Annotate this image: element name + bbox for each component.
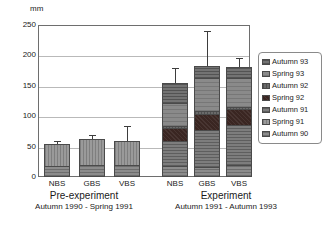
group-title: Experiment	[150, 190, 302, 202]
error-bar-cap	[89, 135, 96, 136]
legend-item-label: Autumn 93	[272, 58, 308, 66]
legend-item-autumn-91[interactable]: Autumn 91	[262, 104, 318, 116]
x-axis-tick-label: GBS	[189, 179, 225, 188]
bars-layer	[38, 25, 250, 177]
spring93-swatch-icon	[262, 71, 270, 77]
bar-segment-autumn-90	[227, 166, 251, 176]
legend-item-spring-91[interactable]: Spring 91	[262, 116, 318, 128]
group-caption-pre-experiment: Pre-experiment Autumn 1990 - Spring 1991	[14, 190, 154, 212]
legend-item-label: Spring 91	[272, 118, 304, 126]
y-axis-tick-label: 100	[10, 112, 36, 120]
y-axis-tick-label: 150	[10, 82, 36, 90]
legend-item-label: Autumn 91	[272, 106, 308, 114]
legend-item-spring-92[interactable]: Spring 92	[262, 92, 318, 104]
bar-segment-autumn-93	[163, 84, 187, 104]
bar-experiment-gbs	[194, 66, 220, 177]
autumn90-swatch-icon	[262, 131, 270, 137]
autumn92-swatch-icon	[262, 83, 270, 89]
y-axis-tick-label: 250	[10, 21, 36, 29]
error-bar-cap	[204, 31, 211, 32]
bar-segment-spring-93	[195, 79, 219, 112]
error-bar-line	[207, 31, 208, 66]
bar-segment-spring-91	[115, 142, 139, 166]
bar-segment-autumn-90	[115, 166, 139, 176]
legend-item-label: Autumn 90	[272, 130, 308, 138]
bar-segment-autumn-90	[163, 167, 187, 177]
autumn91-swatch-icon	[262, 107, 270, 113]
group-subtitle: Autumn 1990 - Spring 1991	[14, 202, 154, 212]
legend-item-autumn-90[interactable]: Autumn 90	[262, 128, 318, 140]
bar-segment-spring-92	[195, 115, 219, 131]
y-axis-tick-labels: 050100150200250	[8, 25, 36, 177]
legend-item-spring-93[interactable]: Spring 93	[262, 68, 318, 80]
x-axis-tick-label: GBS	[74, 179, 110, 188]
bar-segment-spring-92	[227, 110, 251, 126]
bar-segment-autumn-93	[195, 67, 219, 78]
legend-item-autumn-92[interactable]: Autumn 92	[262, 80, 318, 92]
spring91-swatch-icon	[262, 119, 270, 125]
bar-experiment-nbs	[162, 83, 188, 177]
legend-item-label: Autumn 92	[272, 82, 308, 90]
y-axis-tick-label: 200	[10, 51, 36, 59]
bar-chart: mm 050100150200250 NBSGBSVBSNBSGBSVBS Pr…	[0, 0, 327, 226]
error-bar-line	[175, 68, 176, 84]
bar-segment-autumn-91	[227, 126, 251, 167]
bar-pre-experiment-gbs	[79, 139, 105, 177]
y-axis-tick-label: 50	[10, 143, 36, 151]
x-axis-tick-label: NBS	[157, 179, 193, 188]
legend-item-label: Spring 92	[272, 94, 304, 102]
error-bar-line	[127, 126, 128, 141]
autumn93-swatch-icon	[262, 59, 270, 65]
x-axis-tick-label: VBS	[109, 179, 145, 188]
error-bar-cap	[124, 126, 131, 127]
bar-segment-autumn-93	[227, 68, 251, 79]
legend-item-label: Spring 93	[272, 70, 304, 78]
group-caption-experiment: Experiment Autumn 1991 - Autumn 1993	[150, 190, 302, 212]
bar-pre-experiment-vbs	[114, 141, 140, 177]
bar-segment-autumn-90	[195, 168, 219, 176]
error-bar-cap	[172, 68, 179, 69]
group-title: Pre-experiment	[14, 190, 154, 202]
bar-segment-autumn-90	[80, 166, 104, 176]
bar-segment-spring-93	[163, 104, 187, 127]
bar-segment-spring-93	[227, 79, 251, 108]
bar-segment-spring-91	[80, 140, 104, 165]
error-bar-cap	[236, 58, 243, 59]
y-axis-tick-label: 0	[10, 173, 36, 181]
y-axis-unit-label: mm	[30, 4, 43, 13]
bar-experiment-vbs	[226, 67, 252, 177]
legend-item-autumn-93[interactable]: Autumn 93	[262, 56, 318, 68]
bar-segment-autumn-91	[163, 142, 187, 166]
error-bar-line	[239, 58, 240, 67]
spring92-swatch-icon	[262, 95, 270, 101]
bar-segment-autumn-90	[45, 167, 69, 176]
bar-pre-experiment-nbs	[44, 144, 70, 177]
x-axis-tick-label: NBS	[39, 179, 75, 188]
bar-segment-autumn-91	[195, 131, 219, 167]
chart-legend: Autumn 93Spring 93Autumn 92Spring 92Autu…	[258, 52, 322, 144]
x-axis-tick-label: VBS	[221, 179, 257, 188]
group-subtitle: Autumn 1991 - Autumn 1993	[150, 202, 302, 212]
bar-segment-spring-91	[45, 145, 69, 167]
bar-segment-spring-92	[163, 129, 187, 142]
error-bar-cap	[54, 141, 61, 142]
